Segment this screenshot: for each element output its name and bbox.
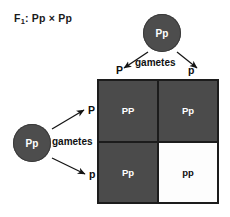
punnett-cell-bottom-left: Pp (99, 143, 157, 203)
parent-left-genotype: Pp (26, 138, 39, 149)
arrow-left-top-icon (52, 110, 84, 129)
gametes-label-top: gametes (135, 57, 176, 68)
gamete-left-bottom: p (89, 168, 95, 180)
punnett-square-figure: F1: Pp × Pp Pp gametes P p Pp gametes P … (0, 0, 230, 217)
punnett-square-grid: PP Pp Pp pp (97, 79, 219, 204)
parent-circle-left: Pp (13, 124, 51, 162)
punnett-cell-top-right: Pp (159, 81, 217, 141)
punnett-cell-bottom-right: pp (159, 143, 217, 203)
gametes-label-left: gametes (52, 136, 93, 147)
parent-circle-top: Pp (143, 14, 181, 52)
gamete-left-top: P (88, 104, 95, 116)
gamete-top-right: p (188, 64, 194, 76)
parent-top-genotype: Pp (156, 28, 169, 39)
gamete-top-left: P (116, 64, 123, 76)
punnett-cell-top-left: PP (99, 81, 157, 141)
arrow-left-bottom-icon (52, 158, 85, 174)
